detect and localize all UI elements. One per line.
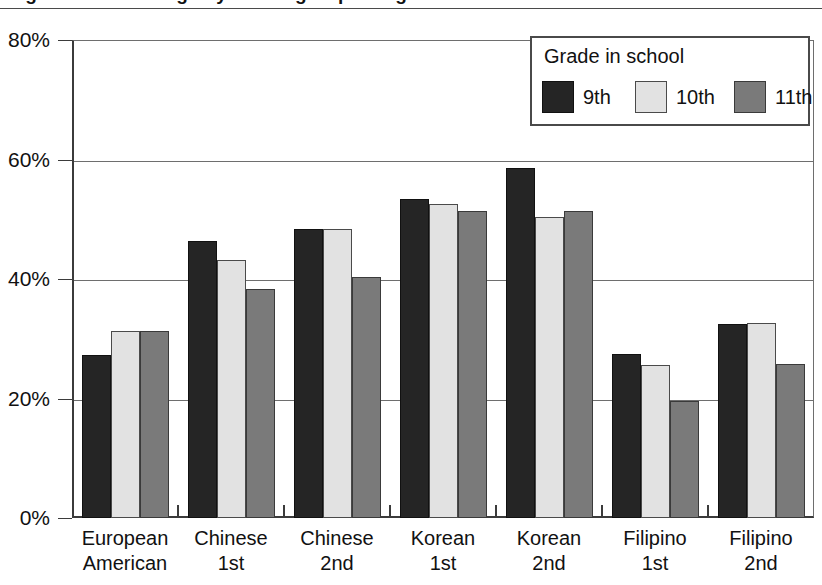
x-group-label-line1: Korean bbox=[411, 527, 476, 549]
bar bbox=[670, 401, 699, 518]
x-group-label-line2: 2nd bbox=[708, 551, 814, 576]
legend-swatch-9th bbox=[542, 81, 574, 113]
y-tick-mark-80 bbox=[58, 40, 72, 41]
bar bbox=[718, 324, 747, 518]
x-group-label: Korean1st bbox=[390, 526, 496, 576]
bar bbox=[217, 260, 246, 518]
x-group-label: Korean2nd bbox=[496, 526, 602, 576]
legend-title: Grade in school bbox=[544, 45, 684, 67]
y-tick-mark-0 bbox=[58, 518, 72, 519]
x-group-label-line1: European bbox=[82, 527, 169, 549]
x-group-label-line1: Chinese bbox=[194, 527, 267, 549]
y-tick-label-60: 60% bbox=[0, 149, 50, 170]
legend-label-9th: 9th bbox=[583, 87, 611, 107]
bar bbox=[140, 331, 169, 518]
x-group-label-line2: 2nd bbox=[496, 551, 602, 576]
legend-item-10th[interactable]: 10th bbox=[635, 78, 715, 116]
y-tick-mark-40 bbox=[58, 279, 72, 280]
legend-item-11th[interactable]: 11th bbox=[734, 78, 812, 116]
y-tick-label-20: 20% bbox=[0, 388, 50, 409]
bar bbox=[641, 365, 670, 518]
x-group-label-line2: 2nd bbox=[284, 551, 390, 576]
x-separator-tick bbox=[707, 505, 709, 518]
y-tick-label-0: 0% bbox=[0, 507, 50, 528]
bar bbox=[564, 211, 593, 518]
bar bbox=[429, 204, 458, 518]
legend-swatch-10th bbox=[635, 81, 667, 113]
x-group-label-line2: 1st bbox=[602, 551, 708, 576]
chart-figure: Figure 1. Percentage by ethnic group and… bbox=[0, 0, 822, 585]
bar bbox=[535, 217, 564, 518]
x-group-label: Chinese2nd bbox=[284, 526, 390, 576]
x-group-label: Filipino2nd bbox=[708, 526, 814, 576]
x-separator-tick bbox=[601, 505, 603, 518]
x-group-label-line1: Korean bbox=[517, 527, 582, 549]
bar bbox=[188, 241, 217, 518]
y-tick-mark-60 bbox=[58, 160, 72, 161]
x-group-label-line2: 1st bbox=[178, 551, 284, 576]
x-group-label: EuropeanAmerican bbox=[72, 526, 178, 576]
x-group-label: Chinese1st bbox=[178, 526, 284, 576]
x-group-label-line1: Filipino bbox=[623, 527, 686, 549]
bar bbox=[323, 229, 352, 518]
title-divider bbox=[0, 8, 822, 9]
legend-label-10th: 10th bbox=[676, 87, 715, 107]
legend: Grade in school 9th10th11th bbox=[530, 36, 810, 126]
figure-title: Figure 1. Percentage by ethnic group and… bbox=[8, 0, 448, 5]
x-separator-tick bbox=[283, 505, 285, 518]
y-tick-label-40: 40% bbox=[0, 268, 50, 289]
bar bbox=[246, 289, 275, 518]
bar bbox=[506, 168, 535, 518]
x-group-label-line1: Chinese bbox=[300, 527, 373, 549]
bar bbox=[111, 331, 140, 518]
legend-item-9th[interactable]: 9th bbox=[542, 78, 611, 116]
bar bbox=[400, 199, 429, 518]
x-group-label: Filipino1st bbox=[602, 526, 708, 576]
y-tick-label-80: 80% bbox=[0, 29, 50, 50]
bar bbox=[294, 229, 323, 518]
bar bbox=[776, 364, 805, 518]
legend-swatch-11th bbox=[734, 81, 766, 113]
bar bbox=[82, 355, 111, 518]
legend-label-11th: 11th bbox=[775, 87, 812, 107]
x-separator-tick bbox=[177, 505, 179, 518]
x-group-label-line1: Filipino bbox=[729, 527, 792, 549]
bar bbox=[458, 211, 487, 518]
x-separator-tick bbox=[495, 505, 497, 518]
legend-items: 9th10th11th bbox=[542, 78, 804, 118]
y-axis: 0%20%40%60%80% bbox=[0, 0, 72, 585]
y-tick-mark-20 bbox=[58, 399, 72, 400]
x-group-label-line2: American bbox=[72, 551, 178, 576]
x-separator-tick bbox=[389, 505, 391, 518]
bar bbox=[352, 277, 381, 518]
x-group-label-line2: 1st bbox=[390, 551, 496, 576]
bar bbox=[612, 354, 641, 518]
bar bbox=[747, 323, 776, 518]
